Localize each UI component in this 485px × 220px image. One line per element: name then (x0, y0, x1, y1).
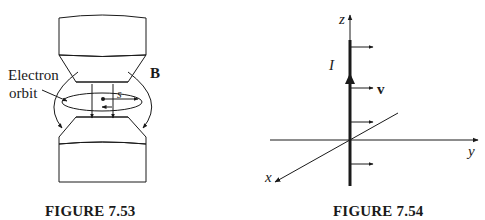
electron-orbit-label-line1: Electron (8, 68, 59, 83)
velocity-label: v (377, 82, 385, 97)
current-arrow (345, 73, 355, 84)
electron-orbit-label-line2: orbit (9, 86, 37, 101)
figure-caption-753: FIGURE 7.53 (45, 204, 136, 219)
magnet-diagram (42, 15, 152, 182)
z-axis-label: z (339, 12, 345, 27)
bottom-pole-cylinder (59, 142, 146, 182)
fringe-field-right (128, 72, 152, 128)
radius-label: s (117, 88, 122, 100)
x-axis (275, 113, 398, 182)
y-axis-label: y (468, 144, 475, 159)
magnetic-field-label: B (150, 66, 160, 81)
figure-canvas (0, 0, 485, 220)
axes-diagram (270, 15, 478, 186)
top-pole-cone (59, 55, 146, 82)
figure-caption-754: FIGURE 7.54 (333, 204, 424, 219)
x-axis-label: x (265, 170, 272, 185)
top-pole-cylinder (59, 15, 146, 57)
current-label: I (329, 58, 334, 73)
bottom-pole-cone (59, 117, 146, 144)
electron-orbit (62, 93, 142, 111)
